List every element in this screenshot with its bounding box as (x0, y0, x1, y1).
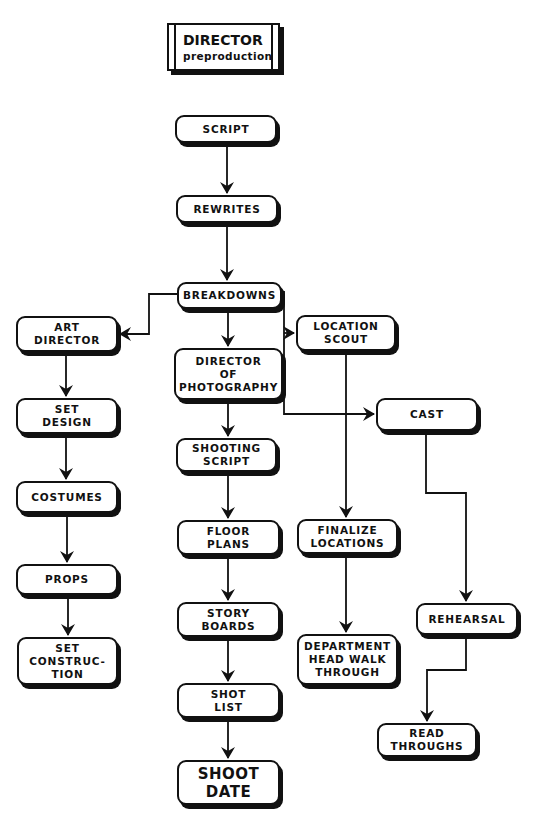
node-location-scout: LOCATION SCOUT (296, 315, 396, 351)
node-rehearsal: REHEARSAL (416, 603, 518, 635)
node-art-director: ART DIRECTOR (16, 316, 118, 352)
node-props: PROPS (16, 564, 118, 595)
node-department-head-walk-through: DEPARTMENT HEAD WALK THROUGH (297, 634, 398, 685)
node-director-of-photography: DIRECTOR OF PHOTOGRAPHY (174, 348, 283, 400)
title-subtitle: preproduction (183, 49, 271, 63)
node-shooting-script: SHOOTING SCRIPT (176, 438, 277, 472)
node-cast: CAST (376, 398, 478, 431)
node-floor-plans: FLOOR PLANS (177, 520, 280, 555)
flowchart: DIRECTOR preproduction SCRIPT REWRITES B… (0, 0, 536, 821)
node-story-boards: STORY BOARDS (177, 602, 280, 637)
node-rewrites: REWRITES (176, 195, 278, 223)
node-script: SCRIPT (175, 115, 277, 143)
node-read-throughs: READ THROUGHS (377, 723, 477, 757)
node-breakdowns: BREAKDOWNS (177, 282, 282, 309)
node-set-construction: SET CONSTRUC- TION (17, 637, 118, 685)
node-shoot-date: SHOOT DATE (177, 760, 280, 805)
node-costumes: COSTUMES (16, 481, 118, 513)
title-box: DIRECTOR preproduction (167, 23, 280, 71)
node-shot-list: SHOT LIST (177, 683, 280, 718)
title-main: DIRECTOR (183, 32, 271, 49)
node-set-design: SET DESIGN (16, 398, 118, 434)
node-finalize-locations: FINALIZE LOCATIONS (297, 519, 398, 554)
